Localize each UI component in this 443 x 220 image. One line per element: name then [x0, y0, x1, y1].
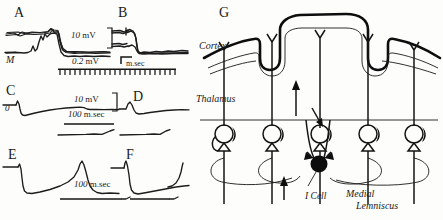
timing-comb-ruler — [58, 68, 176, 77]
ascending-arrow-cortex — [292, 80, 300, 116]
panel-a-trace-label: M — [6, 55, 15, 66]
panel-g-circuit-diagram — [196, 8, 442, 213]
caption-strip-cropped — [0, 212, 443, 220]
figure-canvas: A M B 10 mV 0.2 mV m.sec — [0, 0, 443, 220]
cortex-outline — [204, 14, 440, 76]
relay-input-arrow — [312, 108, 323, 127]
panel-cd-sweep-markers — [58, 126, 178, 138]
scale-label-10mv-cd: 10 mV — [74, 95, 99, 104]
panel-label-c: C — [6, 84, 15, 98]
panel-label-a: A — [14, 6, 24, 20]
scale-label-02mv-ab: 0.2 mV — [72, 57, 99, 66]
msec-hook-ab — [120, 55, 134, 65]
scale-bracket-10mv-cd — [111, 92, 119, 112]
medial-lemniscus-line1: Medial — [346, 188, 374, 199]
thalamus-label: Thalamus — [196, 93, 235, 105]
medial-lemniscus-label: Medial Lemniscus — [346, 188, 398, 212]
inhibitory-i-cell — [304, 152, 334, 186]
i-cell-label: I Cell — [305, 191, 326, 202]
scale-label-100msec-ef: 100 m.sec — [74, 180, 111, 189]
scale-bracket-10mv — [106, 27, 114, 49]
medial-lemniscus-line2: Lemniscus — [346, 200, 398, 212]
panel-label-b: B — [118, 6, 127, 20]
scale-label-10mv-ab: 10 mV — [71, 31, 96, 40]
scale-label-100msec-cd: 100 m.sec — [68, 110, 105, 119]
panel-c-zero-label: 0 — [5, 104, 10, 113]
cortex-label: Cortex — [199, 40, 226, 52]
panel-ef-sweep-markers — [60, 196, 180, 208]
